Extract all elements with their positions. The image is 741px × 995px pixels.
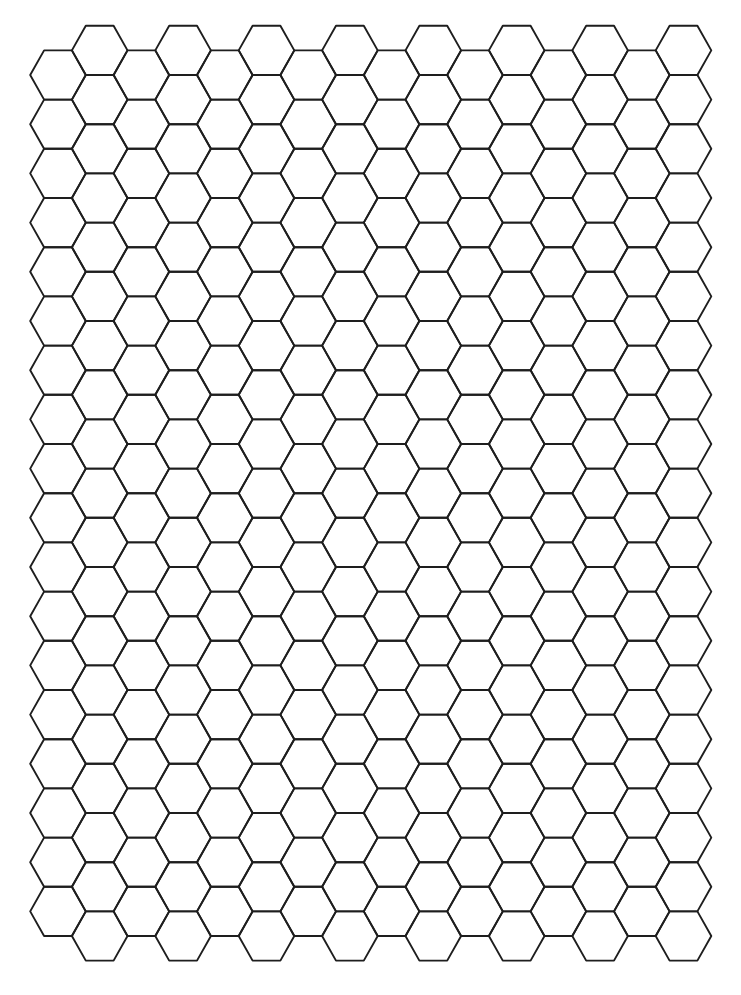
hex-cell: [197, 542, 253, 591]
hex-cell: [614, 346, 670, 395]
hex-cell: [280, 444, 336, 493]
hex-cell: [197, 788, 253, 837]
hex-cell: [531, 198, 587, 247]
hex-cell: [572, 764, 628, 813]
hex-cell: [322, 567, 378, 616]
hex-cell: [322, 665, 378, 714]
hex-cell: [406, 911, 462, 960]
hex-cell: [406, 419, 462, 468]
hex-cell: [72, 370, 128, 419]
hex-cell: [614, 247, 670, 296]
hex-cell: [489, 567, 545, 616]
hex-cell: [364, 838, 420, 887]
hex-cell: [114, 493, 170, 542]
hex-cell: [72, 75, 128, 124]
hex-cell: [572, 419, 628, 468]
hex-cell: [489, 616, 545, 665]
hex-cell: [322, 173, 378, 222]
hex-cell: [114, 296, 170, 345]
hex-cell: [114, 395, 170, 444]
hex-cell: [322, 469, 378, 518]
hex-cell: [114, 739, 170, 788]
hex-cell: [447, 690, 503, 739]
hex-cell: [155, 518, 211, 567]
hex-cell: [114, 247, 170, 296]
hex-cell: [447, 247, 503, 296]
hex-cell: [280, 690, 336, 739]
hex-cell: [531, 149, 587, 198]
hex-cell: [406, 715, 462, 764]
hex-cell: [656, 26, 712, 75]
hex-cell: [280, 100, 336, 149]
hex-cell: [114, 788, 170, 837]
hex-cell: [72, 616, 128, 665]
hex-cell: [572, 469, 628, 518]
hex-cell: [280, 641, 336, 690]
hex-cell: [489, 911, 545, 960]
hex-cell: [572, 26, 628, 75]
hex-cell: [197, 887, 253, 936]
hex-cell: [531, 739, 587, 788]
hex-cell: [239, 223, 295, 272]
hex-grid: [0, 0, 741, 995]
hex-cell: [114, 592, 170, 641]
hex-cell: [406, 173, 462, 222]
hex-cell: [322, 321, 378, 370]
hex-cell: [531, 493, 587, 542]
hex-cell: [572, 272, 628, 321]
hex-cell: [531, 690, 587, 739]
hex-cell: [197, 50, 253, 99]
hex-cell: [531, 395, 587, 444]
hex-cell: [656, 518, 712, 567]
hex-cell: [447, 296, 503, 345]
hex-cell: [197, 739, 253, 788]
hex-cell: [280, 346, 336, 395]
hex-cell: [155, 370, 211, 419]
hex-cell: [614, 887, 670, 936]
hex-cell: [572, 715, 628, 764]
hex-cell: [155, 616, 211, 665]
hex-cell: [489, 75, 545, 124]
hex-cell: [239, 26, 295, 75]
hex-cell: [30, 838, 86, 887]
hex-cell: [322, 223, 378, 272]
hex-cell: [531, 592, 587, 641]
hex-cell: [531, 444, 587, 493]
hex-cell: [489, 518, 545, 567]
hex-cell: [364, 50, 420, 99]
hex-cell: [280, 838, 336, 887]
hex-cell: [614, 690, 670, 739]
hex-cell: [614, 198, 670, 247]
hex-cell: [114, 690, 170, 739]
hex-cell: [30, 247, 86, 296]
hex-cell: [406, 272, 462, 321]
hex-cell: [614, 149, 670, 198]
hex-cell: [531, 788, 587, 837]
hex-cell: [364, 247, 420, 296]
hex-cell: [322, 419, 378, 468]
hex-cell: [155, 911, 211, 960]
hex-cell: [197, 838, 253, 887]
hex-cell: [155, 764, 211, 813]
hex-cell: [155, 75, 211, 124]
hex-cell: [572, 567, 628, 616]
hex-cell: [489, 715, 545, 764]
hex-cell: [114, 100, 170, 149]
hex-cell: [656, 665, 712, 714]
hex-cell: [406, 518, 462, 567]
hex-cell: [531, 887, 587, 936]
hex-cell: [656, 616, 712, 665]
hex-cell: [239, 567, 295, 616]
hex-cell: [489, 469, 545, 518]
hex-cell: [197, 198, 253, 247]
hex-cell: [72, 419, 128, 468]
hex-cell: [30, 346, 86, 395]
hex-cell: [656, 223, 712, 272]
hex-cell: [30, 296, 86, 345]
hex-cell: [614, 739, 670, 788]
hex-cell: [72, 124, 128, 173]
hex-cell: [489, 124, 545, 173]
hex-cell: [656, 75, 712, 124]
hex-cell: [155, 223, 211, 272]
hex-cell: [447, 149, 503, 198]
